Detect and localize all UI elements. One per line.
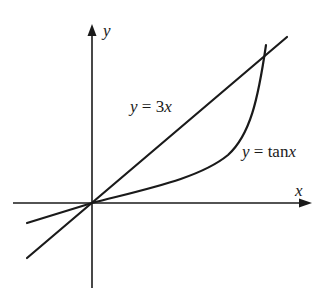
line-label-var: y — [128, 97, 138, 116]
x-axis — [13, 199, 312, 208]
y-axis — [88, 24, 97, 288]
y-axis-arrow-icon — [88, 24, 97, 36]
tan-label-var: y — [240, 142, 250, 161]
line-label: y = 3x — [128, 97, 172, 116]
tan-label-eq: = tan — [250, 142, 289, 161]
tan-label: y = tanx — [240, 142, 296, 161]
tan-label-tail: x — [287, 142, 296, 161]
line-label-eq: = 3 — [138, 97, 165, 116]
tan-curve — [27, 45, 266, 223]
diagram-canvas: y x y = 3x y = tanx — [0, 0, 330, 300]
y-axis-label: y — [101, 21, 111, 40]
x-axis-label: x — [294, 181, 303, 200]
line-label-tail: x — [163, 97, 172, 116]
